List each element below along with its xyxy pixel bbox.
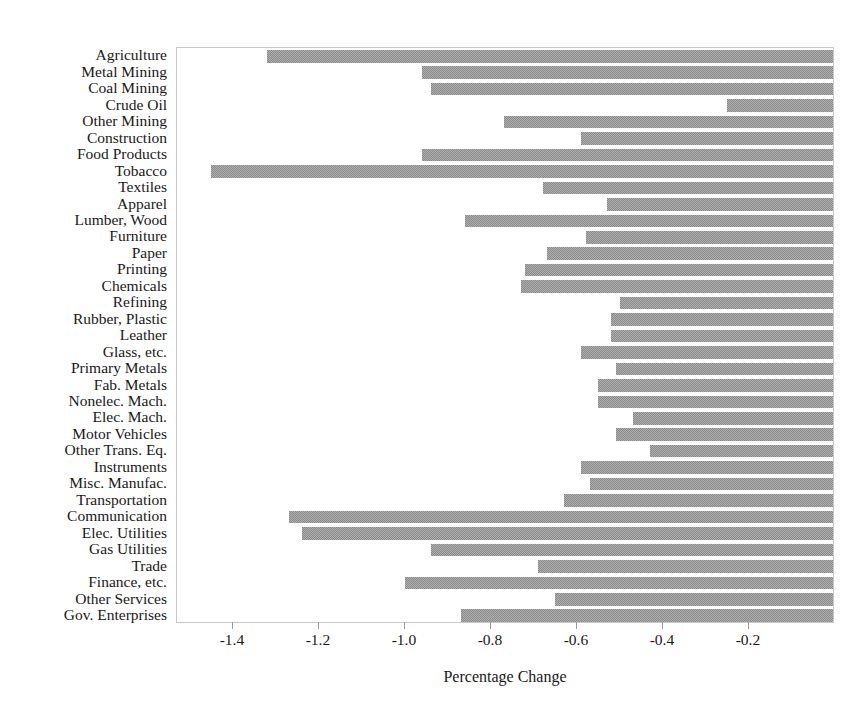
category-label: Construction [0, 130, 167, 146]
bar [633, 412, 834, 425]
bar [581, 346, 834, 359]
bar [422, 149, 834, 162]
axis-tick [232, 622, 233, 629]
bar [586, 231, 834, 244]
category-label: Apparel [0, 196, 167, 212]
bar [461, 609, 834, 622]
category-label: Trade [0, 558, 167, 574]
category-label: Other Trans. Eq. [0, 442, 167, 458]
category-label: Leather [0, 327, 167, 343]
category-label: Rubber, Plastic [0, 311, 167, 327]
axis-tick [662, 622, 663, 629]
category-label: Instruments [0, 459, 167, 475]
axis-tick-label: -0.2 [718, 631, 778, 648]
bar-chart-figure: AgricultureMetal MiningCoal MiningCrude … [0, 0, 868, 721]
bar [302, 527, 834, 540]
category-label: Other Services [0, 591, 167, 607]
bar [555, 593, 834, 606]
category-label: Gov. Enterprises [0, 607, 167, 623]
bar [211, 165, 834, 178]
category-label: Misc. Manufac. [0, 475, 167, 491]
bar [620, 297, 834, 310]
bar [590, 478, 834, 491]
bar [504, 116, 834, 129]
category-label: Gas Utilities [0, 541, 167, 557]
axis-tick-label: -1.4 [202, 631, 262, 648]
category-label: Furniture [0, 228, 167, 244]
bar [405, 577, 834, 590]
bar [543, 182, 834, 195]
axis-tick [490, 622, 491, 629]
category-label: Primary Metals [0, 360, 167, 376]
category-label: Finance, etc. [0, 574, 167, 590]
category-axis-labels: AgricultureMetal MiningCoal MiningCrude … [0, 47, 167, 623]
category-label: Coal Mining [0, 80, 167, 96]
category-label: Motor Vehicles [0, 426, 167, 442]
bar [431, 83, 834, 96]
bar [521, 280, 834, 293]
category-label: Printing [0, 261, 167, 277]
axis-tick [748, 622, 749, 629]
axis-tick-label: -0.8 [460, 631, 520, 648]
bar [598, 379, 834, 392]
category-label: Glass, etc. [0, 344, 167, 360]
bar [267, 50, 834, 63]
bar [611, 330, 834, 343]
axis-tick [318, 622, 319, 629]
value-axis: -1.4-1.2-1.0-0.8-0.6-0.4-0.2 [176, 622, 834, 662]
category-label: Communication [0, 508, 167, 524]
category-label: Metal Mining [0, 64, 167, 80]
category-label: Elec. Utilities [0, 525, 167, 541]
axis-tick-label: -0.6 [546, 631, 606, 648]
axis-tick [576, 622, 577, 629]
bar [650, 445, 834, 458]
bar [607, 198, 834, 211]
axis-tick-label: -1.0 [374, 631, 434, 648]
category-label: Refining [0, 294, 167, 310]
category-label: Fab. Metals [0, 377, 167, 393]
category-label: Nonelec. Mach. [0, 393, 167, 409]
bar [581, 132, 834, 145]
category-label: Crude Oil [0, 97, 167, 113]
axis-tick-label: -1.2 [288, 631, 348, 648]
bar [538, 560, 834, 573]
category-label: Tobacco [0, 163, 167, 179]
plot-area [176, 47, 834, 623]
bar [431, 544, 834, 557]
bar [465, 215, 834, 228]
bar [422, 66, 834, 79]
category-label: Elec. Mach. [0, 409, 167, 425]
axis-tick-label: -0.4 [632, 631, 692, 648]
bar [525, 264, 834, 277]
x-axis-title: Percentage Change [176, 668, 834, 686]
bar [616, 363, 834, 376]
bar [727, 99, 834, 112]
bar [547, 247, 834, 260]
category-label: Lumber, Wood [0, 212, 167, 228]
bar [581, 461, 834, 474]
category-label: Food Products [0, 146, 167, 162]
bar [598, 396, 834, 409]
bar [564, 494, 834, 507]
axis-tick [404, 622, 405, 629]
category-label: Transportation [0, 492, 167, 508]
category-label: Agriculture [0, 47, 167, 63]
bars-group [177, 48, 833, 622]
category-label: Other Mining [0, 113, 167, 129]
category-label: Textiles [0, 179, 167, 195]
category-label: Paper [0, 245, 167, 261]
bar [289, 511, 834, 524]
category-label: Chemicals [0, 278, 167, 294]
bar [616, 428, 834, 441]
bar [611, 313, 834, 326]
